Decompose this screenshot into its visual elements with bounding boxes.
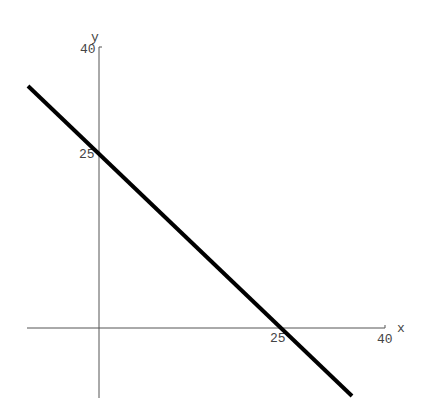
x-tick-label-40: 40 [377, 332, 393, 347]
x-tick-label-25: 25 [270, 331, 286, 346]
x-axis-label: x [397, 321, 405, 336]
y-axis-label: y [91, 30, 99, 45]
data-line [28, 86, 352, 396]
chart: 40 25 25 40 y x [0, 0, 423, 410]
